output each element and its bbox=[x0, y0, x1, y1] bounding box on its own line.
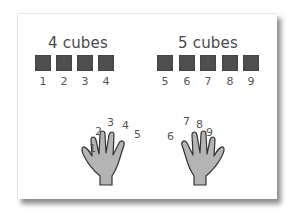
cube-label: 8 bbox=[222, 75, 238, 88]
finger-label: 7 bbox=[183, 115, 190, 128]
finger-label: 1 bbox=[89, 142, 96, 155]
cube-2 bbox=[56, 55, 72, 71]
left-hand-icon bbox=[80, 126, 142, 186]
finger-label: 2 bbox=[95, 125, 102, 138]
left-group-title: 4 cubes bbox=[48, 34, 108, 52]
finger-label: 6 bbox=[167, 130, 174, 143]
cube-3 bbox=[77, 55, 93, 71]
cube-7 bbox=[200, 55, 216, 71]
cube-label: 1 bbox=[35, 75, 51, 88]
cube-8 bbox=[222, 55, 238, 71]
cube-6 bbox=[179, 55, 195, 71]
cube-9 bbox=[243, 55, 259, 71]
right-group-title: 5 cubes bbox=[178, 34, 238, 52]
finger-label: 9 bbox=[206, 126, 213, 139]
finger-label: 3 bbox=[107, 116, 114, 129]
cube-label: 7 bbox=[200, 75, 216, 88]
cube-label: 4 bbox=[98, 75, 114, 88]
finger-label: 8 bbox=[196, 118, 203, 131]
finger-label: 5 bbox=[134, 128, 141, 141]
cube-label: 2 bbox=[56, 75, 72, 88]
cube-1 bbox=[35, 55, 51, 71]
illustration-card: 4 cubes 1 2 3 4 5 cubes 5 6 7 8 9 1 2 3 … bbox=[17, 13, 277, 199]
finger-label: 4 bbox=[122, 119, 129, 132]
cube-label: 3 bbox=[77, 75, 93, 88]
cube-label: 5 bbox=[157, 75, 173, 88]
cube-label: 9 bbox=[243, 75, 259, 88]
cube-4 bbox=[98, 55, 114, 71]
cube-label: 6 bbox=[179, 75, 195, 88]
cube-5 bbox=[157, 55, 173, 71]
